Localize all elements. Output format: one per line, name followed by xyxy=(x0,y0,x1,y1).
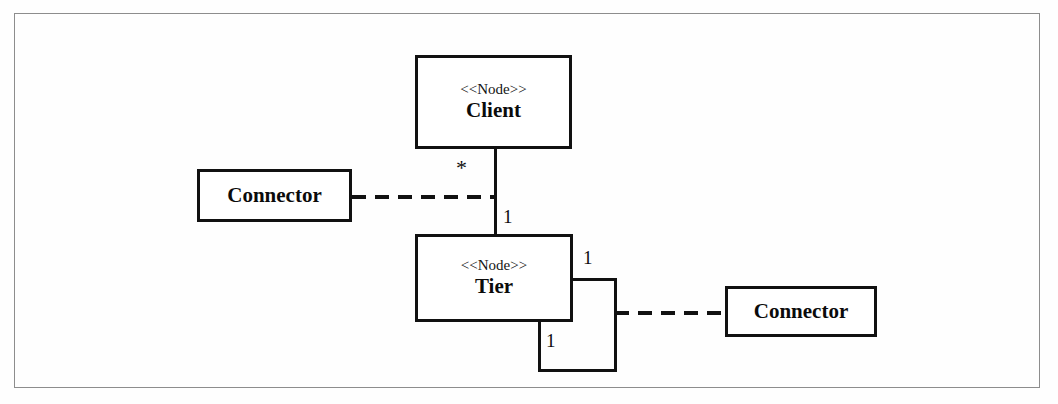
node-client-stereotype: <<Node>> xyxy=(460,82,526,98)
node-tier-name: Tier xyxy=(475,275,513,298)
node-tier[interactable]: <<Node>> Tier xyxy=(415,234,573,322)
dependency-line-connector-left xyxy=(352,195,495,199)
class-connector-left-label: Connector xyxy=(227,183,321,208)
node-client-name: Client xyxy=(466,99,521,122)
association-line-tier-self-left xyxy=(538,320,541,372)
diagram-canvas: <<Node>> Client <<Node>> Tier Connector … xyxy=(0,0,1058,404)
multiplicity-tier-end: 1 xyxy=(503,207,513,226)
association-line-tier-self-right xyxy=(614,278,617,372)
association-line-tier-self-bottom xyxy=(538,369,617,372)
class-connector-right[interactable]: Connector xyxy=(725,286,877,337)
association-line-client-tier xyxy=(494,148,497,235)
class-connector-left[interactable]: Connector xyxy=(197,169,352,222)
multiplicity-tier-self-target: 1 xyxy=(546,331,556,350)
association-line-tier-self-top xyxy=(571,278,617,281)
multiplicity-client-end: * xyxy=(456,157,467,179)
node-tier-stereotype: <<Node>> xyxy=(461,258,527,274)
node-client[interactable]: <<Node>> Client xyxy=(415,55,572,149)
multiplicity-tier-self-source: 1 xyxy=(583,248,593,267)
dependency-line-connector-right xyxy=(615,311,726,315)
class-connector-right-label: Connector xyxy=(754,299,848,324)
diagram-frame: <<Node>> Client <<Node>> Tier Connector … xyxy=(14,13,1040,388)
